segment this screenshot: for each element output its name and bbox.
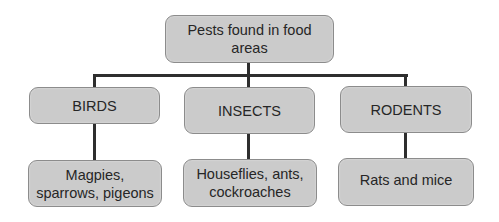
examples-line1: Houseflies, ants, [196,165,303,183]
examples-node-rodents: Rats and mice [338,158,474,206]
branch-bar [93,74,408,77]
insects-examples-connector [247,133,250,160]
rodents-examples-connector [404,132,407,159]
root-node: Pests found in food areas [165,15,334,63]
category-label: BIRDS [72,97,116,115]
examples-node-birds: Magpies, sparrows, pigeons [28,160,162,207]
category-label: RODENTS [371,101,442,119]
birds-examples-connector [93,123,96,161]
category-node-birds: BIRDS [29,87,160,124]
examples-line1: Rats and mice [360,171,453,189]
examples-line2: cockroaches [196,183,303,201]
examples-node-insects: Houseflies, ants, cockroaches [183,159,317,207]
insects-connector [247,74,250,88]
examples-line1: Magpies, [36,166,154,184]
category-node-insects: INSECTS [184,87,315,134]
root-node-line1: Pests found in food [187,21,311,39]
examples-line2: sparrows, pigeons [36,184,154,202]
root-node-line2: areas [187,39,311,57]
category-label: INSECTS [218,102,281,120]
birds-connector [93,74,96,88]
category-node-rodents: RODENTS [340,86,472,133]
